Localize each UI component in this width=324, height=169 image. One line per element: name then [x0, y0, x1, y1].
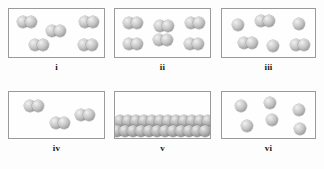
atom-sphere	[83, 109, 95, 121]
atom-sphere	[192, 38, 204, 50]
atom-sphere	[293, 104, 305, 116]
panel-v-label: v	[114, 143, 211, 153]
panel-ii: ii	[114, 8, 211, 76]
atom-sphere	[298, 39, 310, 51]
panel-iv: iv	[8, 91, 105, 157]
atom-sphere	[161, 34, 173, 46]
panel-iv-box	[8, 91, 105, 139]
atom-sphere	[267, 40, 279, 52]
atom-sphere	[58, 117, 70, 129]
panel-ii-label: ii	[114, 62, 211, 72]
panel-vi-label: vi	[221, 143, 316, 153]
panel-iii: iii	[221, 8, 316, 76]
atom-sphere	[25, 16, 37, 28]
atom-sphere	[293, 18, 305, 30]
panel-v: v	[114, 91, 211, 157]
atom-sphere	[266, 114, 278, 126]
atom-sphere	[294, 123, 306, 135]
panel-iv-label: iv	[8, 143, 105, 153]
panel-iii-label: iii	[221, 62, 316, 72]
panel-iii-box	[221, 8, 316, 58]
atom-sphere	[86, 39, 98, 51]
atom-sphere	[246, 37, 258, 49]
panel-vi: vi	[221, 91, 316, 157]
atom-sphere	[241, 120, 253, 132]
panel-ii-box	[114, 8, 211, 58]
atom-sphere	[235, 100, 247, 112]
atom-sphere	[54, 25, 66, 37]
panel-i-box	[8, 8, 105, 58]
atom-sphere	[232, 19, 244, 31]
panel-i-label: i	[8, 62, 105, 72]
atom-sphere	[162, 20, 174, 32]
atom-sphere	[131, 38, 143, 50]
particle-diagram-figure: iiiiiiivvvi	[0, 0, 324, 169]
atom-sphere	[264, 97, 276, 109]
atom-sphere	[193, 17, 205, 29]
atom-sphere	[32, 100, 44, 112]
atom-sphere	[87, 16, 99, 28]
atom-sphere	[131, 17, 143, 29]
panel-v-box	[114, 91, 211, 139]
panel-vi-box	[221, 91, 316, 139]
atom-sphere	[37, 39, 49, 51]
atom-sphere	[263, 15, 275, 27]
panel-i: i	[8, 8, 105, 76]
atom-sphere	[199, 125, 211, 137]
